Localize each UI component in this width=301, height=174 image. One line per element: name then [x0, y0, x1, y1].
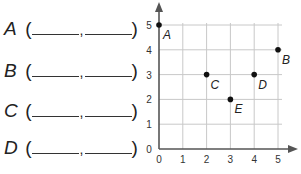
y-tick-label: 4 [146, 45, 152, 56]
close-paren: ) [132, 18, 138, 39]
x-blank[interactable] [32, 20, 79, 35]
data-point [251, 72, 257, 78]
y-blank[interactable] [85, 139, 132, 154]
point-label-e: E [234, 102, 243, 116]
coordinate-answer-list: A (,) B (,) C (,) D (,) [0, 0, 140, 174]
x-blank[interactable] [32, 62, 79, 77]
y-tick-label: 0 [146, 144, 152, 155]
x-tick-label: 1 [180, 154, 186, 165]
y-tick-label: 3 [146, 70, 152, 81]
answer-row-a: A (,) [4, 18, 138, 40]
data-point [204, 72, 210, 78]
data-point [228, 97, 234, 103]
y-tick-label: 2 [146, 94, 152, 105]
x-tick-label: 5 [275, 154, 281, 165]
x-tick-label: 3 [228, 154, 234, 165]
close-paren: ) [132, 60, 138, 81]
close-paren: ) [132, 137, 138, 158]
point-label-c: C [211, 78, 220, 92]
data-point [156, 22, 162, 28]
answer-row-d: D (,) [4, 137, 138, 159]
data-point [275, 47, 281, 53]
x-blank[interactable] [32, 102, 79, 117]
y-blank[interactable] [85, 62, 132, 77]
x-blank[interactable] [32, 139, 79, 154]
y-blank[interactable] [85, 20, 132, 35]
answer-row-b: B (,) [4, 60, 138, 82]
close-paren: ) [132, 100, 138, 121]
coordinate-grid: 012345012345ABCDE [140, 0, 301, 174]
x-axis-arrow-icon [288, 145, 298, 153]
point-label-d: D [258, 78, 267, 92]
x-tick-label: 0 [156, 154, 162, 165]
point-label: A [4, 18, 20, 40]
x-tick-label: 4 [251, 154, 257, 165]
answer-row-c: C (,) [4, 100, 138, 122]
y-tick-label: 1 [146, 119, 152, 130]
point-label: B [4, 60, 20, 82]
x-tick-label: 2 [204, 154, 210, 165]
point-label: C [4, 100, 20, 122]
point-label-a: A [162, 28, 171, 42]
y-axis-arrow-icon [155, 2, 163, 12]
point-label-b: B [282, 53, 290, 67]
y-blank[interactable] [85, 102, 132, 117]
point-label: D [4, 137, 20, 159]
y-tick-label: 5 [146, 20, 152, 31]
